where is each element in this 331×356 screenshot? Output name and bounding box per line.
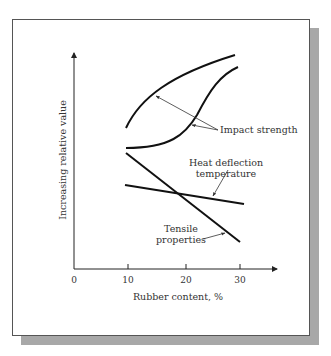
- chart: 0 10 20 30 Rubber content, % Increasing …: [0, 0, 331, 356]
- tensile-label-1: Tensile: [164, 223, 198, 234]
- impact-leader-upper: [156, 96, 218, 130]
- tensile-label-2: properties: [156, 234, 206, 245]
- tick-label-10: 10: [122, 275, 134, 285]
- tick-label-30: 30: [234, 275, 246, 285]
- tensile-leader: [203, 233, 225, 239]
- tick-label-0: 0: [71, 275, 77, 285]
- heat-deflection-line: [125, 185, 244, 204]
- y-axis-label: Increasing relative value: [57, 100, 68, 220]
- impact-strength-label: Impact strength: [220, 124, 298, 135]
- impact-strength-lower-curve: [126, 67, 238, 148]
- heat-deflection-label-2: temperature: [196, 168, 257, 179]
- tick-label-20: 20: [180, 275, 192, 285]
- x-axis-label: Rubber content, %: [133, 291, 223, 302]
- impact-strength-upper-curve: [126, 55, 235, 128]
- heat-deflection-label-1: Heat deflection: [189, 157, 263, 168]
